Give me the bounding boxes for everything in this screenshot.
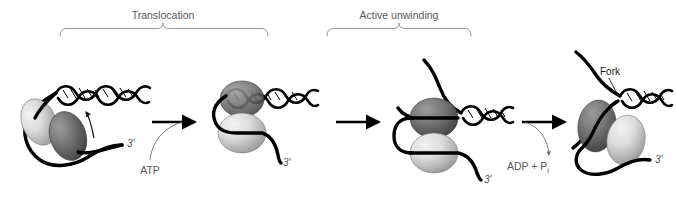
duplex-backbone-a: [56, 86, 150, 100]
phase-bracket-active-unwinding: Active unwinding: [327, 9, 471, 36]
dna-duplex-stage-1: [56, 86, 150, 105]
stage-3-active-unwinding: 3': [394, 60, 513, 185]
phase-bracket-translocation: Translocation: [60, 9, 268, 36]
bracket-path-active-unwinding: [327, 23, 471, 36]
fork-label: Fork: [600, 66, 621, 77]
prime-label-3: 3': [655, 154, 664, 165]
reaction-arrow-3: ADP + Pi: [507, 122, 564, 175]
duplex-rung: [627, 93, 632, 101]
phase-label-active-unwinding: Active unwinding: [360, 9, 439, 21]
stage-2-translocation-end: 3': [214, 81, 318, 168]
duplex-rung: [63, 90, 68, 98]
prime-label-3: 3': [283, 157, 292, 168]
adp-output-arrow: [525, 122, 549, 155]
stage-4-fork: Fork 3': [573, 52, 672, 174]
adp-label-text: ADP + P: [507, 160, 547, 172]
dna-duplex-stage-4: [620, 89, 672, 108]
ssdna-loop-stage-3: [394, 118, 412, 153]
adp-label-subscript: i: [547, 166, 549, 175]
duplex-rung: [468, 110, 473, 118]
prime-label-3: 3': [484, 174, 493, 185]
duplex-rung: [275, 92, 280, 100]
duplex-rung: [103, 89, 108, 97]
subunit-dark: [220, 81, 264, 117]
duplex-backbone-b: [58, 91, 149, 105]
dna-duplex-stage-3: [461, 106, 513, 125]
rotation-arrow-stage-1: [86, 112, 94, 138]
figure-root: Translocation Active unwinding: [0, 0, 676, 197]
atp-input-arrow: [150, 122, 182, 160]
prime-label-3: 3': [127, 138, 136, 149]
stage-1-translocation-start: 3': [14, 86, 150, 165]
atp-label: ATP: [140, 164, 160, 176]
reaction-arrow-1: ATP: [140, 122, 194, 176]
adp-label: ADP + Pi: [507, 160, 549, 175]
helicase-unwinding-diagram: Translocation Active unwinding: [0, 0, 676, 197]
phase-label-translocation: Translocation: [132, 9, 195, 21]
bracket-path-translocation: [60, 23, 268, 36]
